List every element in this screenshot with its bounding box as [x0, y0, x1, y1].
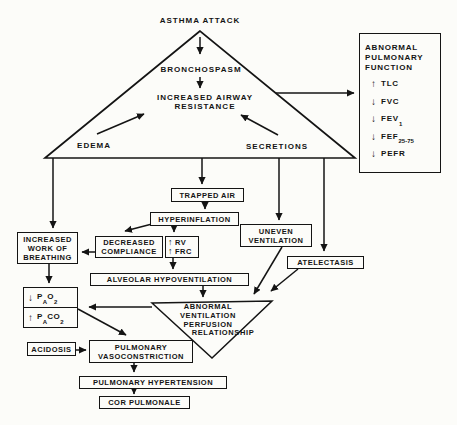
down-arrow-icon: ↓ — [371, 113, 381, 124]
pf-item-fef25-75: ↓ FEF25-75 — [371, 131, 440, 146]
paco2-row: ↑ PACO2 — [24, 308, 77, 327]
down-arrow-icon: ↓ — [371, 148, 381, 159]
pulmonary-vasoconstriction-line2: VASOCONSTRICTION — [98, 352, 184, 361]
decreased-compliance-line1: DECREASED — [103, 238, 155, 247]
trapped-air-label: TRAPPED AIR — [179, 191, 235, 200]
pf-items: ↑ TLC ↓ FVC ↓ FEV1 ↓ FEF25-75 ↓ PEFR — [371, 78, 440, 163]
atelectasis-label: ATELECTASIS — [297, 258, 353, 267]
pf-item-label: TLC — [381, 78, 399, 93]
iwob-line1: INCREASED — [23, 235, 72, 244]
down-arrow-icon: ↓ — [371, 131, 381, 142]
pulmonary-hypertension-label: PULMONARY HYPERTENSION — [93, 378, 213, 387]
pf-title: ABNORMAL PULMONARY FUNCTION — [365, 43, 440, 73]
frc-row: ↑ FRC — [168, 247, 198, 256]
down-arrow-icon: ↓ — [28, 292, 37, 303]
acidosis-box: ACIDOSIS — [27, 342, 76, 356]
increased-airway-resistance-line1: INCREASED AIRWAY — [157, 93, 253, 102]
iwob-line3: BREATHING — [23, 253, 72, 262]
decreased-compliance-box: DECREASED COMPLIANCE — [95, 236, 163, 258]
asthma-attack-label: ASTHMA ATTACK — [160, 16, 241, 25]
asthma-pathophysiology-diagram: ASTHMA ATTACK BRONCHOSPASM INCREASED AIR… — [0, 0, 457, 425]
up-arrow-icon: ↑ — [28, 312, 37, 323]
hyperinflation-label: HYPERINFLATION — [158, 215, 230, 224]
hyperinflation-box: HYPERINFLATION — [150, 212, 239, 226]
paco2-symbol: PACO2 — [37, 312, 64, 323]
vq-line4: RELATIONSHIP — [173, 329, 273, 338]
edema-label: EDEMA — [77, 141, 111, 150]
decreased-compliance-line2: COMPLIANCE — [101, 247, 156, 256]
pulmonary-vasoconstriction-box: PULMONARY VASOCONSTRICTION — [89, 340, 193, 363]
pf-item-label: PEFR — [381, 148, 406, 163]
secretions-label: SECRETIONS — [246, 142, 308, 151]
uneven-ventilation-line1: UNEVEN — [259, 227, 293, 236]
down-arrow-icon: ↓ — [371, 96, 381, 107]
cor-pulmonale-box: COR PULMONALE — [99, 396, 190, 409]
increased-airway-resistance-label: INCREASED AIRWAY RESISTANCE — [157, 93, 253, 111]
cor-pulmonale-label: COR PULMONALE — [108, 398, 181, 407]
pulmonary-hypertension-box: PULMONARY HYPERTENSION — [79, 376, 227, 389]
pf-item-label: FEF25-75 — [381, 131, 414, 146]
uneven-ventilation-line2: VENTILATION — [249, 236, 304, 245]
increased-airway-resistance-line2: RESISTANCE — [157, 102, 253, 111]
pao2-symbol: PAO2 — [37, 292, 57, 303]
uneven-ventilation-box: UNEVEN VENTILATION — [240, 224, 312, 247]
increased-work-of-breathing-box: INCREASED WORK OF BREATHING — [17, 232, 78, 264]
rv-frc-box: ↑ RV ↑ FRC — [165, 236, 199, 258]
pf-item-tlc: ↑ TLC — [371, 78, 440, 93]
atelectasis-box: ATELECTASIS — [287, 256, 364, 269]
pf-title-line2: PULMONARY — [365, 53, 440, 63]
pf-item-label: FVC — [381, 96, 399, 111]
rv-label: RV — [175, 238, 186, 247]
bronchospasm-label: BRONCHOSPASM — [160, 65, 241, 74]
up-arrow-icon: ↑ — [371, 78, 381, 89]
vq-relationship-label: ABNORMAL VENTILATION PERFUSION RELATIONS… — [158, 303, 258, 338]
pf-item-pefr: ↓ PEFR — [371, 148, 440, 163]
up-arrow-icon: ↑ — [168, 247, 175, 256]
alveolar-hypoventilation-label: ALVEOLAR HYPOVENTILATION — [107, 275, 232, 284]
abnormal-pulmonary-function-box: ABNORMAL PULMONARY FUNCTION ↑ TLC ↓ FVC … — [359, 33, 441, 173]
pao2-row: ↓ PAO2 — [24, 288, 77, 308]
pulmonary-vasoconstriction-line1: PULMONARY — [115, 343, 168, 352]
blood-gas-box: ↓ PAO2 ↑ PACO2 — [23, 287, 78, 328]
acidosis-label: ACIDOSIS — [31, 345, 71, 354]
iwob-line2: WORK OF — [28, 244, 68, 253]
pf-title-line1: ABNORMAL — [365, 43, 440, 53]
pf-item-fvc: ↓ FVC — [371, 96, 440, 111]
pf-title-line3: FUNCTION — [365, 63, 440, 73]
trapped-air-box: TRAPPED AIR — [171, 188, 244, 202]
alveolar-hypoventilation-box: ALVEOLAR HYPOVENTILATION — [90, 273, 249, 286]
pf-item-label: FEV1 — [381, 113, 402, 128]
pf-item-fev1: ↓ FEV1 — [371, 113, 440, 128]
frc-label: FRC — [175, 247, 192, 256]
